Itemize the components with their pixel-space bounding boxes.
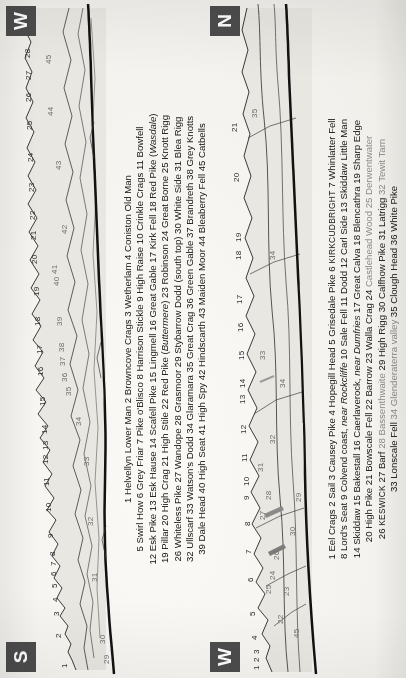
skyline-drawing-south-west xyxy=(2,0,122,678)
peak-number: 25 xyxy=(264,585,273,594)
skyline-drawing-west-north xyxy=(206,0,326,678)
peak-number: 3 xyxy=(52,611,61,616)
peak-number: 22 xyxy=(276,615,285,624)
peak-number: 15 xyxy=(38,397,47,406)
peak-number: 40 xyxy=(52,277,61,286)
peak-number: 17 xyxy=(35,345,44,354)
peak-number: 10 xyxy=(242,477,251,486)
peak-number: 35 xyxy=(250,109,259,118)
peak-number: 34 xyxy=(268,251,277,260)
peak-number: 44 xyxy=(46,107,55,116)
key-line: 14 Skiddaw 15 Bakestall 16 Caerlaverock,… xyxy=(351,0,363,678)
peak-number: 16 xyxy=(236,323,245,332)
peak-number: 2 xyxy=(54,633,63,638)
scanned-page: 1 2 3 4 5 6 7 8 9 10 11 12 13 14 15 16 1… xyxy=(0,0,406,678)
peak-number: 18 xyxy=(234,251,243,260)
peak-number: 20 xyxy=(232,173,241,182)
peak-number: 4 xyxy=(51,597,60,602)
peak-number: 36 xyxy=(60,373,69,382)
peak-number: 34 xyxy=(74,417,83,426)
peak-number: 45 xyxy=(44,55,53,64)
peak-number: 35 xyxy=(64,387,73,396)
peak-number: 18 xyxy=(33,317,42,326)
key-line: 5 Swirl How 6 Grey Friar 7 Pike o'Blisco… xyxy=(134,0,146,678)
peak-number: 37 xyxy=(58,357,67,366)
peak-number: 5 xyxy=(248,611,257,616)
peak-number: 32 xyxy=(86,517,95,526)
peak-number: 9 xyxy=(46,533,55,538)
key-line: 33 Lonscale Fell 34 Glenderaterra valley… xyxy=(388,0,400,678)
compass-badge-south: S xyxy=(6,642,36,672)
key-line: 1 Helvellyn Lower Man 2 Browncove Crags … xyxy=(122,0,134,678)
peak-number: 17 xyxy=(235,295,244,304)
key-line: 12 Esk Pike 13 Esk Hause 14 Scafell Pike… xyxy=(147,0,159,678)
peak-number: 12 xyxy=(239,425,248,434)
peak-number: 29 xyxy=(294,493,303,502)
peak-number: 14 xyxy=(40,425,49,434)
peak-number: 25 xyxy=(25,121,34,130)
peak-number: 45 xyxy=(292,629,301,638)
panorama-panel-west-north: 1 2 3 4 5 6 7 8 9 10 11 12 13 14 15 16 1… xyxy=(206,0,404,678)
peak-number: 7 xyxy=(244,549,253,554)
key-line: 20 High Pike 21 Bowscale Fell 22 Barrow … xyxy=(363,0,375,678)
peak-number: 32 xyxy=(268,435,277,444)
peak-number: 2 xyxy=(252,657,261,662)
peak-number: 30 xyxy=(98,635,107,644)
peak-number: 9 xyxy=(242,495,251,500)
peak-number: 13 xyxy=(238,395,247,404)
peak-number: 27 xyxy=(24,71,33,80)
peak-number: 33 xyxy=(82,457,91,466)
peak-number: 20 xyxy=(30,255,39,264)
key-line: 26 KESWICK 27 Barf 28 Bassenthwaite 29 H… xyxy=(376,0,388,678)
peak-number: 12 xyxy=(41,455,50,464)
peak-number: 34 xyxy=(278,379,287,388)
peak-number: 28 xyxy=(264,491,273,500)
peak-number: 21 xyxy=(29,231,38,240)
peak-number: 15 xyxy=(237,351,246,360)
peak-number: 24 xyxy=(268,571,277,580)
peak-number: 1 xyxy=(60,663,69,668)
page-rotator: 1 2 3 4 5 6 7 8 9 10 11 12 13 14 15 16 1… xyxy=(0,0,406,678)
peak-number: 11 xyxy=(42,477,51,486)
compass-badge-west: W xyxy=(210,642,240,672)
compass-badge-north: N xyxy=(210,6,240,36)
peak-number: 30 xyxy=(288,527,297,536)
peak-number: 26 xyxy=(272,551,281,560)
peak-number: 41 xyxy=(50,265,59,274)
peak-number: 6 xyxy=(49,571,58,576)
peak-number: 22 xyxy=(28,211,37,220)
compass-badge-west: W xyxy=(6,6,36,36)
peak-number: 38 xyxy=(57,343,66,352)
peak-number: 3 xyxy=(252,649,261,654)
peak-number: 24 xyxy=(26,153,35,162)
peak-number: 8 xyxy=(243,521,252,526)
peak-number: 39 xyxy=(55,317,64,326)
peak-number: 23 xyxy=(27,183,36,192)
peak-number: 4 xyxy=(250,635,259,640)
peak-number: 19 xyxy=(32,287,41,296)
peak-number: 14 xyxy=(238,379,247,388)
panorama-key-south-west: 1 Helvellyn Lower Man 2 Browncove Crags … xyxy=(122,0,209,678)
peak-number: 26 xyxy=(24,93,33,102)
peak-number: 42 xyxy=(60,225,69,234)
key-line: 26 Whiteless Pike 27 Wandope 28 Grasmoor… xyxy=(172,0,184,678)
peak-number: 13 xyxy=(41,441,50,450)
peak-number: 21 xyxy=(230,123,239,132)
peak-number: 31 xyxy=(256,463,265,472)
peak-number: 11 xyxy=(240,453,249,462)
peak-number: 29 xyxy=(102,655,111,664)
peak-number: 1 xyxy=(252,665,261,670)
peak-number: 27 xyxy=(258,511,267,520)
peak-number: 31 xyxy=(90,573,99,582)
panorama-panel-south-west: 1 2 3 4 5 6 7 8 9 10 11 12 13 14 15 16 1… xyxy=(2,0,200,678)
peak-number: 8 xyxy=(48,551,57,556)
peak-number: 7 xyxy=(49,561,58,566)
peak-number: 10 xyxy=(44,503,53,512)
peak-number: 16 xyxy=(36,367,45,376)
panorama-key-west-north: 1 Eel Crags 2 Sail 3 Causey Pike 4 Hopeg… xyxy=(326,0,400,678)
key-line: 8 Lord's Seat 9 Colvend coast, near Rock… xyxy=(338,0,350,678)
peak-number: 28 xyxy=(23,49,32,58)
peak-number: 33 xyxy=(258,351,267,360)
key-line: 32 Ullscarf 33 Watson's Dodd 34 Glaramar… xyxy=(184,0,196,678)
peak-number: 5 xyxy=(50,583,59,588)
